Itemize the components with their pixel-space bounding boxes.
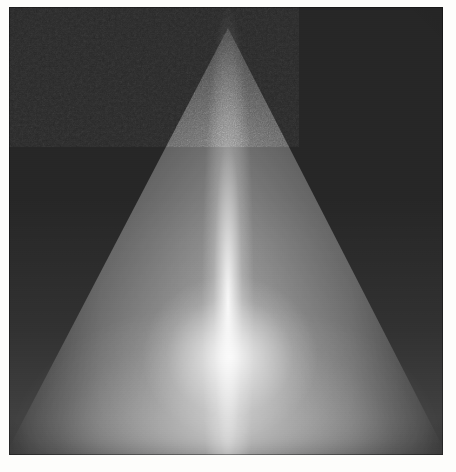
figure-page: Bright conical plume on a dark grainy ba…	[0, 0, 456, 472]
plume-hot-spot	[9, 7, 443, 455]
figure-alt-text: Bright conical plume on a dark grainy ba…	[0, 16, 1, 17]
scanned-plate	[9, 7, 443, 455]
